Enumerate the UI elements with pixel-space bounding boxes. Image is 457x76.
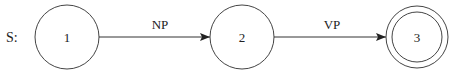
state-node-2: 2 <box>210 5 274 69</box>
fsa-diagram: S: 1 NP 2 VP 3 <box>0 0 457 76</box>
transition-vp: VP <box>274 17 386 37</box>
state-label-1: 1 <box>64 30 71 45</box>
transition-np: NP <box>99 17 210 37</box>
transition-label-vp: VP <box>324 17 341 32</box>
start-label: S: <box>6 30 18 45</box>
state-node-3: 3 <box>386 6 448 68</box>
transition-label-np: NP <box>152 17 169 32</box>
state-label-2: 2 <box>239 30 246 45</box>
state-node-1: 1 <box>35 5 99 69</box>
state-label-3: 3 <box>414 30 421 45</box>
